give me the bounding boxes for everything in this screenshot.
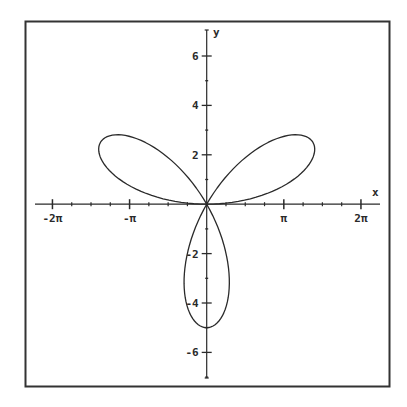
y-tick-label: -6 bbox=[185, 346, 199, 359]
y-tick-label: 6 bbox=[192, 50, 199, 63]
x-tick-label: 2π bbox=[354, 212, 368, 225]
x-tick-label: -π bbox=[123, 212, 137, 225]
polar-rose-chart: -2π-ππ2π642-2-4-6 x y bbox=[0, 0, 407, 407]
y-tick-label: 2 bbox=[192, 149, 199, 162]
y-tick-label: 4 bbox=[192, 99, 199, 112]
x-tick-label: π bbox=[281, 212, 288, 225]
y-axis-label: y bbox=[213, 26, 220, 39]
x-axis-label: x bbox=[372, 186, 379, 199]
x-tick-label: -2π bbox=[43, 212, 63, 225]
